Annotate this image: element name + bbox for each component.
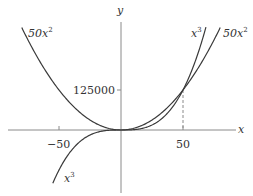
curve-label-x3-bottom: x3 xyxy=(64,171,75,185)
x-axis-label: x xyxy=(238,123,245,136)
chart-canvas: y x −50 50 125000 50x2 x3 50x2 x3 xyxy=(0,0,253,196)
curve-label-50x2-left: 50x2 xyxy=(28,26,53,40)
tick-label-125000: 125000 xyxy=(73,84,115,97)
y-axis-label: y xyxy=(116,4,124,17)
tick-label-50: 50 xyxy=(176,138,190,151)
curve-label-x3-right: x3 xyxy=(191,26,202,40)
curve-label-50x2-right: 50x2 xyxy=(223,26,248,40)
tick-label-neg50: −50 xyxy=(47,138,70,151)
